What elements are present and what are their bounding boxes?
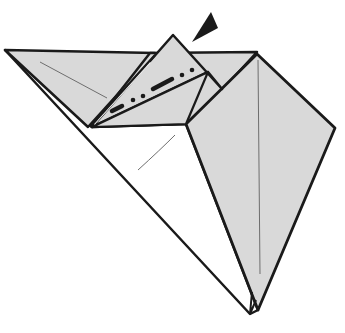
push-arrow-icon	[192, 12, 218, 42]
origami-diagram	[0, 0, 345, 333]
